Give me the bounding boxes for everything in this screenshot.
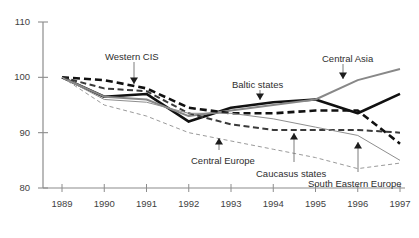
series-label-central-europe: Central Europe [191,155,255,166]
x-axis-tick-label: 1991 [130,198,164,209]
annotation-arrowhead-baltic-states [256,94,264,100]
x-axis-tick-label: 1996 [341,198,375,209]
y-axis-tick-label: 90 [4,127,30,138]
y-axis-tick-label: 100 [4,71,30,82]
series-label-central-asia: Central Asia [322,53,373,64]
x-axis-tick-label: 1990 [87,198,121,209]
annotation-arrowhead-central-europe [215,138,223,144]
x-axis-tick-label: 1997 [383,198,417,209]
x-axis-tick-label: 1989 [45,198,79,209]
y-axis-tick-label: 80 [4,182,30,193]
x-axis-tick-label: 1994 [256,198,290,209]
annotation-arrowhead-south-eastern-europe [354,142,362,148]
series-label-baltic-states: Baltic states [232,79,283,90]
x-axis-tick-label: 1992 [172,198,206,209]
data-series-group [62,69,400,169]
annotation-arrowhead-central-asia [339,73,347,79]
series-line-caucasus-states [62,77,400,132]
series-label-south-eastern-europe: South Eastern Europe [308,178,401,189]
annotation-arrowhead-western-cis [130,78,138,84]
y-axis-tick-label: 110 [4,16,30,27]
chart-container: 1101009080 19891990199119921993199419951… [0,0,419,238]
x-axis-tick-label: 1993 [214,198,248,209]
series-label-western-cis: Western CIS [105,51,159,62]
x-axis-tick-label: 1995 [299,198,333,209]
annotation-arrowhead-caucasus-states [290,133,298,139]
